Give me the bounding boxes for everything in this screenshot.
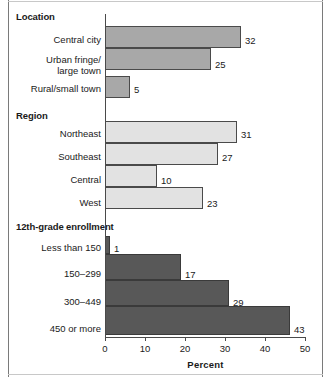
- category-label-150-299: 150–299: [64, 269, 101, 280]
- x-tick-10: [145, 337, 146, 341]
- x-tick-50: [305, 337, 306, 341]
- x-tick-label-0: 0: [102, 343, 107, 354]
- bar-west: [105, 187, 203, 209]
- category-label-southeast: Southeast: [58, 152, 101, 163]
- x-tick-label-10: 10: [140, 343, 151, 354]
- group-heading-enrollment: 12th-grade enrollment: [16, 221, 114, 232]
- value-label-rural-small-town: 5: [134, 84, 139, 95]
- x-tick-label-50: 50: [300, 343, 311, 354]
- bar-central: [105, 165, 157, 187]
- x-tick-label-30: 30: [220, 343, 231, 354]
- bar-northeast: [105, 121, 237, 143]
- value-label-450-or-more: 43: [294, 324, 305, 335]
- category-label-300-449: 300–449: [64, 297, 101, 308]
- bar-chart-plot: Location Central city 32 Urban fringe/la…: [0, 0, 330, 377]
- category-label-central-city: Central city: [53, 35, 101, 46]
- bar-rural-small-town: [105, 76, 130, 98]
- value-label-less-than-150: 1: [114, 243, 119, 254]
- y-axis-line: [105, 14, 106, 337]
- x-axis-line: [105, 337, 306, 338]
- category-label-less-than-150: Less than 150: [41, 243, 101, 254]
- category-label-urban-fringe-line1: Urban fringe/: [46, 54, 101, 65]
- bar-central-city: [105, 26, 241, 48]
- bar-150-299: [105, 254, 181, 280]
- group-heading-location: Location: [16, 11, 55, 22]
- x-tick-label-20: 20: [180, 343, 191, 354]
- category-label-northeast: Northeast: [60, 129, 101, 140]
- value-label-urban-fringe: 25: [215, 59, 226, 70]
- x-tick-40: [265, 337, 266, 341]
- group-heading-region: Region: [16, 110, 48, 121]
- x-axis-title: Percent: [105, 359, 306, 370]
- x-tick-0: [105, 337, 106, 341]
- value-label-northeast: 31: [241, 129, 252, 140]
- category-label-west: West: [80, 198, 101, 209]
- x-tick-30: [225, 337, 226, 341]
- bar-450-or-more: [105, 306, 290, 335]
- x-tick-label-40: 40: [260, 343, 271, 354]
- value-label-central-city: 32: [245, 35, 256, 46]
- value-label-southeast: 27: [222, 152, 233, 163]
- value-label-central: 10: [161, 175, 172, 186]
- bar-urban-fringe: [105, 48, 211, 70]
- bar-300-449: [105, 280, 229, 306]
- category-label-central: Central: [70, 175, 101, 186]
- x-tick-20: [185, 337, 186, 341]
- category-label-urban-fringe-line2: large town: [57, 65, 101, 76]
- bar-southeast: [105, 143, 218, 165]
- category-label-urban-fringe: Urban fringe/large town: [46, 55, 101, 76]
- chart-screenshot: Location Central city 32 Urban fringe/la…: [0, 0, 330, 377]
- value-label-150-299: 17: [185, 269, 196, 280]
- value-label-west: 23: [207, 198, 218, 209]
- category-label-rural-small-town: Rural/small town: [31, 84, 101, 95]
- category-label-450-or-more: 450 or more: [50, 324, 101, 335]
